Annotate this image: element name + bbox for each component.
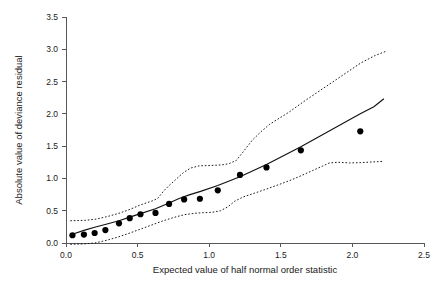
- axes-layer: [66, 17, 424, 243]
- x-axis-title: Expected value of half normal order stat…: [153, 264, 338, 275]
- y-axis-title: Absolute value of deviance residual: [13, 55, 24, 204]
- data-point: [298, 147, 304, 153]
- x-tick-label: 2.5: [418, 250, 430, 260]
- data-point: [181, 196, 187, 202]
- data-point: [69, 232, 75, 238]
- data-point: [197, 196, 203, 202]
- y-tick-label: 2.0: [46, 109, 58, 119]
- chart-canvas: 0.00.51.01.52.02.50.00.51.01.52.02.53.03…: [0, 0, 441, 287]
- y-tick-label: 2.5: [46, 77, 58, 87]
- x-tick-label: 0.5: [132, 250, 144, 260]
- envelope-bound-line: [70, 52, 385, 221]
- envelope-mean-line: [72, 99, 383, 235]
- data-point: [137, 211, 143, 217]
- data-point: [81, 232, 87, 238]
- data-point: [127, 215, 133, 221]
- x-tick-label: 1.0: [203, 250, 215, 260]
- y-tick-label: 3.0: [46, 44, 58, 54]
- data-point: [357, 128, 363, 134]
- data-point: [116, 220, 122, 226]
- data-point: [166, 201, 172, 207]
- tick-labels-layer: 0.00.51.01.52.02.50.00.51.01.52.02.53.03…: [46, 12, 430, 260]
- y-tick-label: 1.0: [46, 173, 58, 183]
- x-tick-label: 0.0: [60, 250, 72, 260]
- tick-marks-layer: [62, 17, 424, 247]
- half-normal-plot-figure: 0.00.51.01.52.02.50.00.51.01.52.02.53.03…: [0, 0, 441, 287]
- envelope-bound-line: [70, 161, 384, 244]
- data-point: [152, 210, 158, 216]
- data-point: [92, 230, 98, 236]
- y-tick-label: 1.5: [46, 141, 58, 151]
- data-series-layer: [70, 52, 385, 245]
- x-tick-label: 2.0: [346, 250, 358, 260]
- data-point: [102, 227, 108, 233]
- data-point: [215, 187, 221, 193]
- data-point: [237, 172, 243, 178]
- y-tick-label: 0.5: [46, 206, 58, 216]
- y-tick-label: 0.0: [46, 238, 58, 248]
- data-point: [263, 164, 269, 170]
- y-tick-label: 3.5: [46, 12, 58, 22]
- x-tick-label: 1.5: [275, 250, 287, 260]
